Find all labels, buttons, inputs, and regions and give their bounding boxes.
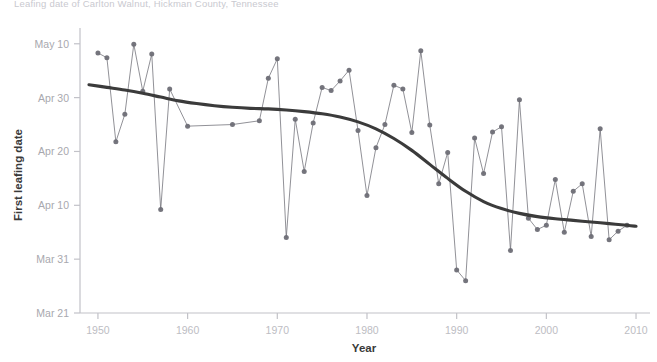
axes [74,28,650,319]
svg-text:1980: 1980 [355,324,379,336]
svg-text:May 10: May 10 [35,38,70,50]
x-axis-title: Year [352,342,377,354]
svg-text:1960: 1960 [176,324,200,336]
svg-text:Apr 20: Apr 20 [38,145,69,157]
svg-text:2010: 2010 [624,324,648,336]
y-axis-title: First leafing date [12,129,24,221]
svg-text:Mar 31: Mar 31 [36,253,69,265]
svg-text:Apr 10: Apr 10 [38,199,69,211]
data-series [89,42,636,283]
chart-root: Leafing date of Carlton Walnut, Hickman … [0,0,657,362]
svg-text:2000: 2000 [535,324,559,336]
chart-canvas: Mar 21Mar 31Apr 10Apr 20Apr 30May 101950… [0,0,657,362]
svg-text:1970: 1970 [266,324,290,336]
svg-text:Apr 30: Apr 30 [38,92,69,104]
svg-text:1990: 1990 [445,324,469,336]
svg-text:Mar 21: Mar 21 [36,307,69,319]
svg-text:1950: 1950 [86,324,110,336]
